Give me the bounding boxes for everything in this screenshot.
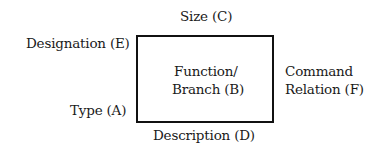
function-label-line1: Function/ bbox=[174, 63, 238, 80]
function-label-line2: Branch (B) bbox=[172, 81, 244, 98]
size-label: Size (C) bbox=[180, 8, 232, 25]
type-label: Type (A) bbox=[70, 102, 126, 119]
command-relation-label-line1: Command bbox=[285, 63, 353, 80]
command-relation-label-line2: Relation (F) bbox=[285, 81, 364, 98]
designation-label: Designation (E) bbox=[26, 35, 130, 52]
description-label: Description (D) bbox=[153, 127, 255, 144]
